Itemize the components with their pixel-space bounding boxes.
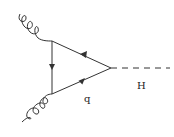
quark-label: q	[84, 93, 91, 104]
gluon-line-top	[19, 14, 52, 41]
arrow-icon-left	[80, 51, 87, 58]
feynman-diagram: q H	[0, 0, 174, 137]
higgs-label: H	[137, 80, 146, 91]
gluon-line-bottom	[22, 94, 52, 122]
arrow-icon-down	[49, 64, 55, 70]
